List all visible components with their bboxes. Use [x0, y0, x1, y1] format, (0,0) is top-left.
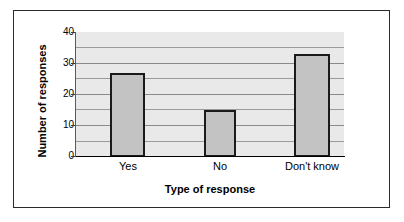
- gridline-minor: [76, 47, 344, 48]
- bar-dont-know: [294, 54, 330, 157]
- bar-no: [204, 110, 236, 157]
- category-label-yes: Yes: [94, 160, 162, 172]
- category-label-dont-know: Don't know: [272, 160, 352, 172]
- plot-area: [76, 32, 344, 157]
- x-axis-category-labels: Yes No Don't know: [76, 160, 344, 176]
- y-axis-title: Number of responses: [36, 31, 48, 171]
- bar-yes: [110, 73, 145, 157]
- x-axis-line: [76, 156, 345, 157]
- category-label-no: No: [186, 160, 254, 172]
- x-axis-title: Type of response: [76, 183, 344, 195]
- chart-frame: Number of responses 40 30 20 10 0 Yes No…: [13, 10, 390, 208]
